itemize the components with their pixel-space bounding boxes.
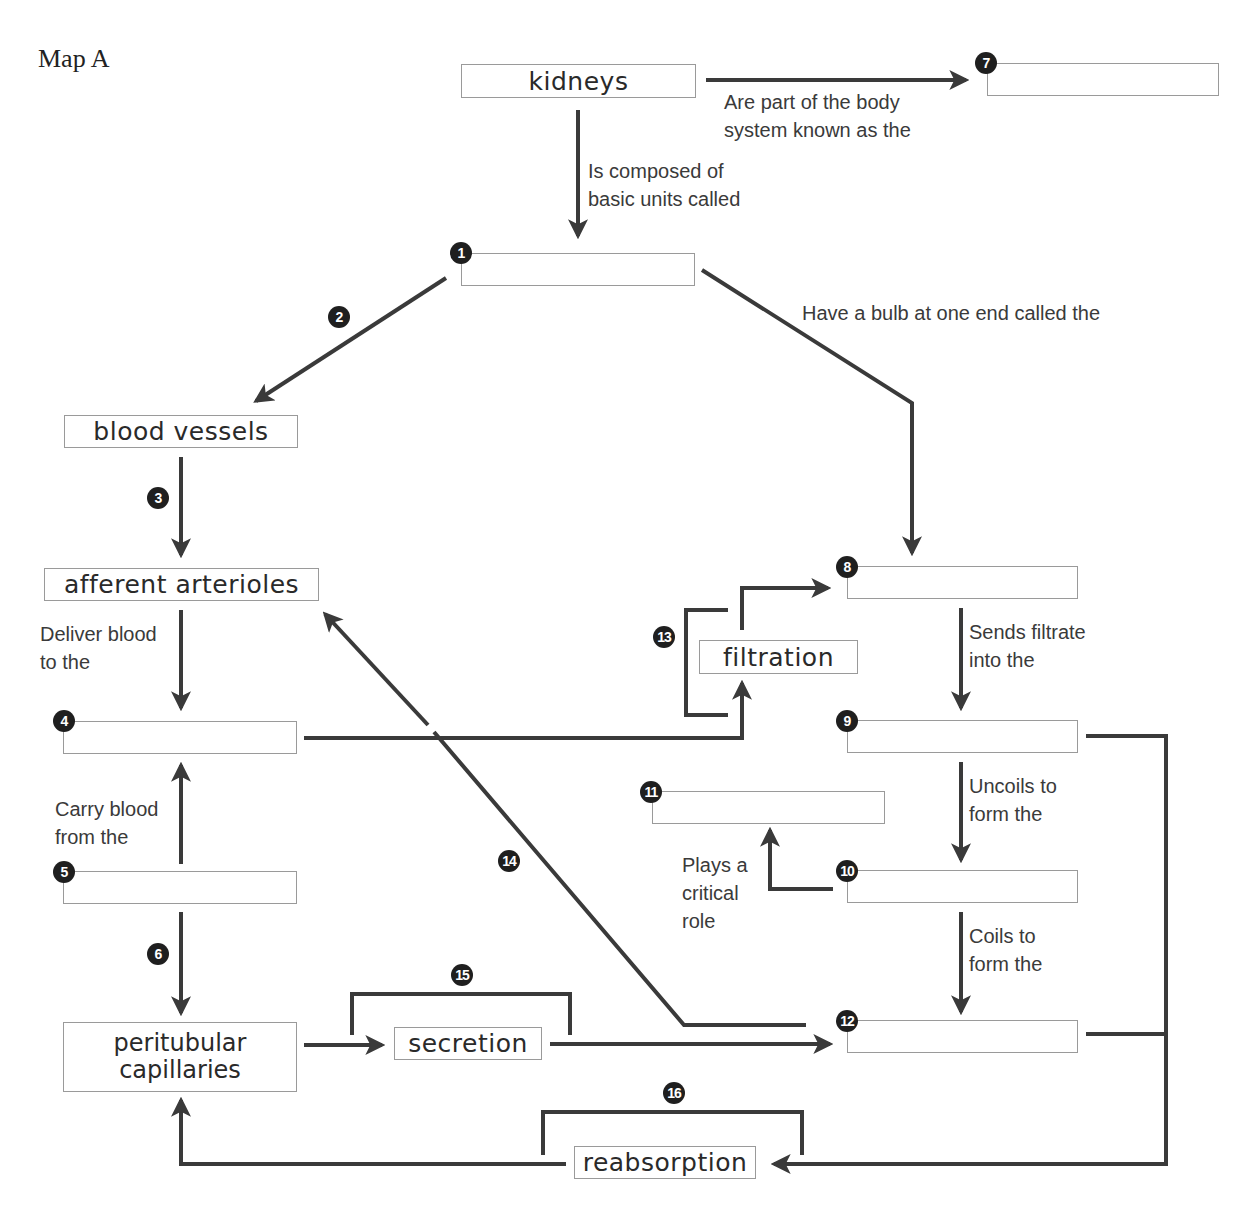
number-badge-1: 1	[450, 242, 472, 264]
concept-reabsorption: reabsorption	[574, 1146, 756, 1179]
concept-secretion: secretion	[394, 1027, 542, 1060]
blank-8-input[interactable]	[847, 566, 1078, 599]
blank-5-input[interactable]	[63, 871, 297, 904]
concept-peritubular-capillaries: peritubular capillaries	[63, 1022, 297, 1092]
blank-9-input[interactable]	[847, 720, 1078, 753]
number-badge-3: 3	[147, 487, 169, 509]
number-badge-2: 2	[328, 306, 350, 328]
arrow-1-to-blood-vessels	[256, 278, 446, 401]
line-14-lower	[434, 732, 806, 1025]
number-badge-16: 16	[663, 1082, 685, 1104]
link-label-carry-blood: Carry blood from the	[55, 795, 158, 851]
arrow-10-to-11	[770, 830, 833, 889]
number-badge-9: 9	[836, 710, 858, 732]
number-badge-14: 14	[498, 850, 520, 872]
arrow-reabsorption-to-peritubular	[181, 1100, 566, 1164]
number-badge-7: 7	[975, 52, 997, 74]
blank-4-input[interactable]	[63, 721, 297, 754]
blank-7-input[interactable]	[987, 63, 1219, 96]
link-label-uncoils: Uncoils to form the	[969, 772, 1057, 828]
concept-afferent-arterioles: afferent arterioles	[44, 568, 319, 601]
link-label-body-system: Are part of the body system known as the	[724, 88, 911, 144]
number-badge-4: 4	[53, 710, 75, 732]
blank-12-input[interactable]	[847, 1020, 1078, 1053]
number-badge-5: 5	[53, 861, 75, 883]
number-badge-10: 10	[836, 860, 858, 882]
link-label-coils: Coils to form the	[969, 922, 1042, 978]
arrow-filtration-to-8	[742, 588, 828, 630]
link-label-plays-role: Plays a critical role	[682, 851, 748, 935]
number-badge-15: 15	[451, 964, 473, 986]
link-label-bulb: Have a bulb at one end called the	[802, 299, 1100, 327]
number-badge-12: 12	[836, 1010, 858, 1032]
blank-10-input[interactable]	[847, 870, 1078, 903]
blank-11-input[interactable]	[652, 791, 885, 824]
arrow-4-to-filtration	[304, 683, 742, 738]
blank-1-input[interactable]	[461, 253, 695, 286]
link-label-sends-filtrate: Sends filtrate into the	[969, 618, 1086, 674]
arrow-14-to-afferent	[325, 614, 428, 725]
concept-blood-vessels: blood vessels	[64, 415, 298, 448]
concept-filtration: filtration	[699, 640, 858, 674]
number-badge-13: 13	[653, 626, 675, 648]
link-label-composed-of: Is composed of basic units called	[588, 157, 740, 213]
concept-kidneys: kidneys	[461, 64, 696, 98]
number-badge-6: 6	[147, 943, 169, 965]
number-badge-11: 11	[640, 781, 662, 803]
number-badge-8: 8	[836, 556, 858, 578]
link-label-deliver-blood: Deliver blood to the	[40, 620, 157, 676]
